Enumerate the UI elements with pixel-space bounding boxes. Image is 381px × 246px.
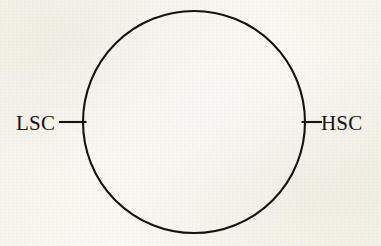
label-hsc: HSC: [321, 111, 362, 135]
circle-diagram: LSC HSC: [0, 0, 381, 246]
figure-canvas: LSC HSC: [0, 0, 381, 246]
main-circle: [83, 11, 305, 233]
label-lsc: LSC: [16, 111, 55, 135]
